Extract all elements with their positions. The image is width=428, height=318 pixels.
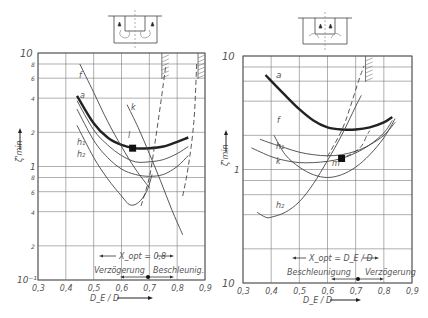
left-y-arrowhead-icon (18, 128, 22, 133)
right-curve-label-h2: h₂ (276, 201, 285, 210)
left-region-arrowhead-right-icon (170, 276, 174, 279)
left-curve-label-h1: h₁ (77, 138, 85, 147)
y-tick-label: 2 (31, 129, 35, 136)
x-tick-label: 0,4 (265, 287, 278, 296)
y-tick-label: 8 (31, 61, 35, 68)
right-curve-label-m: m (332, 159, 340, 168)
left-curve-label-k: k (131, 103, 136, 112)
left-curve-label-f: f (79, 71, 83, 80)
hatch-mark (366, 70, 373, 73)
right-curve-label-a: a (276, 70, 282, 80)
left-region-left-label: Verzögerung (94, 266, 145, 275)
right-chart (243, 56, 412, 283)
hatch-mark (198, 71, 205, 74)
right-y-bottom-label: 10 (222, 278, 235, 289)
hatch-mark (198, 63, 205, 66)
left-curve-label-a: a (80, 91, 85, 100)
hatch-mark (366, 78, 373, 81)
hatch-mark (198, 67, 205, 70)
hatch-mark (366, 66, 373, 69)
y-tick-label: 4 (31, 209, 35, 216)
figure: 10 10⁻¹ 864218642 0,30,40,50,60,70,80,9 … (0, 0, 428, 318)
right-x-ticks: 0,30,40,50,60,70,80,9 (237, 287, 419, 296)
y-tick-label: 8 (31, 174, 35, 181)
left-y-top-label: 10 (20, 48, 33, 59)
right-xopt-arrowhead-left-icon (292, 257, 296, 260)
hatch-mark (198, 55, 205, 58)
hatch-mark (366, 74, 373, 77)
x-tick-label: 0,8 (171, 284, 184, 293)
hatch-mark (366, 58, 373, 61)
left-region-arrowhead-left-icon (120, 276, 124, 279)
left-region-dot (146, 275, 150, 279)
x-tick-label: 0,6 (116, 284, 129, 293)
curve-dashed-rise (328, 66, 365, 157)
curve-f (80, 64, 150, 188)
left-xopt-arrowhead-right-icon (170, 255, 174, 258)
left-chart (38, 53, 205, 280)
curve-lowest (77, 125, 152, 205)
left-x-axis-label: D_E / D (90, 294, 119, 303)
hatch-mark (162, 59, 169, 62)
right-region-arrowhead-left-icon (331, 278, 335, 281)
y-tick-label: 2 (31, 243, 35, 250)
left-region-right-label: Beschleunig. (153, 266, 204, 275)
left-x-arrowhead-icon (148, 296, 153, 300)
right-x-arrowhead-icon (356, 298, 361, 302)
schematic-left-icon (108, 10, 162, 50)
left-xopt-arrowhead-left-icon (99, 255, 103, 258)
hatch-mark (198, 59, 205, 62)
hatch-mark (162, 75, 169, 78)
right-grid (243, 56, 412, 283)
curve-dashed-2 (183, 64, 197, 196)
y-tick-label: 4 (31, 95, 35, 102)
x-tick-label: 0,5 (88, 284, 101, 293)
left-x-ticks: 0,30,40,50,60,70,80,9 (32, 284, 212, 293)
right-region-arrowhead-right-icon (380, 278, 384, 281)
left-grid (38, 53, 205, 280)
right-region-right-label: Verzögerung (365, 268, 416, 277)
curve-a (266, 75, 393, 130)
right-curves (252, 66, 396, 218)
right-x-axis-label: D_E / D (303, 296, 332, 305)
hatch-mark (198, 75, 205, 78)
right-y-top-label: 10 (222, 51, 235, 62)
x-tick-label: 0,7 (350, 287, 364, 296)
x-tick-label: 0,3 (32, 284, 45, 293)
x-tick-label: 0,9 (199, 284, 212, 293)
right-curve-label-h1: h₁ (276, 142, 284, 151)
hatch-mark (162, 63, 169, 66)
x-tick-label: 0,7 (143, 284, 157, 293)
x-tick-label: 0,4 (60, 284, 73, 293)
y-tick-label: 6 (31, 189, 35, 196)
right-region-left-label: Beschleunigung (287, 268, 351, 277)
schematic-right-icon (298, 12, 352, 50)
right-curve-label-k: k (276, 157, 281, 166)
y-tick-label: 6 (31, 75, 35, 82)
x-tick-label: 0,3 (237, 287, 250, 296)
left-y-ticks: 864218642 (30, 61, 36, 250)
x-tick-label: 0,5 (293, 287, 306, 296)
right-y-arrowhead-icon (224, 130, 228, 135)
x-tick-label: 0,9 (406, 287, 419, 296)
right-region-dot (356, 277, 360, 281)
left-curves (77, 64, 197, 235)
hatch-mark (366, 62, 373, 65)
right-curve-label-f: f (277, 116, 281, 125)
x-tick-label: 0,8 (378, 287, 391, 296)
left-curve-label-h2: h₂ (77, 150, 86, 159)
left-xopt-label: X_opt = 0,8 (118, 252, 166, 261)
curve-h2 (257, 95, 361, 217)
y-tick-label: 1 (30, 162, 36, 172)
right-xopt-arrowhead-right-icon (375, 257, 379, 260)
right-xopt-label: X_opt = D_E / D (308, 254, 373, 263)
right-y-one-label: 1 (234, 165, 240, 175)
hatch-mark (162, 55, 169, 58)
x-tick-label: 0,6 (322, 287, 335, 296)
optimum-marker (129, 145, 136, 152)
